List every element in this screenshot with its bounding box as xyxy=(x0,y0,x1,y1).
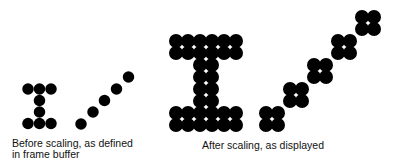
before-scaling-letter-i xyxy=(22,83,57,129)
pixel-dot xyxy=(34,83,46,95)
scaled-pixel-dot xyxy=(343,46,357,60)
scaled-pixel-dot xyxy=(193,58,207,72)
pixel-dot xyxy=(99,95,111,107)
scaled-pixel-dot xyxy=(169,34,183,48)
scaled-pixel-dot xyxy=(259,106,273,120)
scaled-pixel-dot xyxy=(205,118,219,132)
scaled-pixel-dot xyxy=(307,70,321,84)
scaled-pixel-dot xyxy=(193,70,207,84)
scaled-pixel-dot xyxy=(205,82,219,96)
scaled-pixel-dot xyxy=(295,94,309,108)
pixel-dot xyxy=(34,95,46,107)
before-caption-line-2: in frame buffer xyxy=(12,149,133,160)
scaled-pixel-dot xyxy=(283,82,297,96)
after-caption-line-1: After scaling, as displayed xyxy=(202,140,324,151)
scaled-pixel-dot xyxy=(181,34,195,48)
after-scaling-diagonal-line xyxy=(259,10,381,132)
scaled-pixel-dot xyxy=(343,34,357,48)
scaled-pixel-dot xyxy=(205,46,219,60)
pixel-dot xyxy=(111,83,123,95)
scaled-pixel-dot xyxy=(205,94,219,108)
scaled-pixel-dot xyxy=(271,118,285,132)
scaled-pixel-dot xyxy=(205,106,219,120)
scaled-pixel-dot xyxy=(217,46,231,60)
scaled-pixel-dot xyxy=(181,106,195,120)
scaled-pixel-dot xyxy=(205,70,219,84)
after-scaling-letter-i xyxy=(169,34,243,132)
scaled-pixel-dot xyxy=(355,22,369,36)
before-scaling-diagonal-line xyxy=(75,71,134,130)
scaled-pixel-dot xyxy=(217,118,231,132)
scaled-pixel-dot xyxy=(259,118,273,132)
scaled-pixel-dot xyxy=(367,22,381,36)
pixel-scaling-diagram: Before scaling, as defined in frame buff… xyxy=(0,0,396,166)
pixel-dot xyxy=(34,106,46,118)
scaled-pixel-dot xyxy=(193,94,207,108)
scaled-pixel-dot xyxy=(181,118,195,132)
scaled-pixel-dot xyxy=(193,46,207,60)
scaled-pixel-dot xyxy=(193,82,207,96)
pixel-dot xyxy=(45,118,57,130)
scaled-pixel-dot xyxy=(193,118,207,132)
scaled-pixel-dot xyxy=(331,46,345,60)
scaled-pixel-dot xyxy=(283,94,297,108)
pixel-dot xyxy=(22,118,34,130)
pixel-dot xyxy=(45,83,57,95)
scaled-pixel-dot xyxy=(319,70,333,84)
scaled-pixel-dot xyxy=(271,106,285,120)
pixel-dot xyxy=(123,71,135,83)
scaled-pixel-dot xyxy=(181,46,195,60)
scaled-pixel-dot xyxy=(193,106,207,120)
pixel-dot xyxy=(75,118,87,130)
before-scaling-caption: Before scaling, as defined in frame buff… xyxy=(12,138,133,160)
scaled-pixel-dot xyxy=(169,106,183,120)
scaled-pixel-dot xyxy=(295,82,309,96)
pixel-dot xyxy=(87,106,99,118)
scaled-pixel-dot xyxy=(355,10,369,24)
scaled-pixel-dot xyxy=(217,106,231,120)
scaled-pixel-dot xyxy=(367,10,381,24)
scaled-pixel-dot xyxy=(217,34,231,48)
scaled-pixel-dot xyxy=(169,46,183,60)
pixel-dot xyxy=(34,118,46,130)
scaled-pixel-dot xyxy=(229,34,243,48)
scaled-pixel-dot xyxy=(229,118,243,132)
scaled-pixel-dot xyxy=(205,58,219,72)
scaled-pixel-dot xyxy=(205,34,219,48)
after-scaling-caption: After scaling, as displayed xyxy=(202,140,324,151)
pixel-dot xyxy=(22,83,34,95)
scaled-pixel-dot xyxy=(193,34,207,48)
scaled-pixel-dot xyxy=(319,58,333,72)
scaled-pixel-dot xyxy=(229,106,243,120)
scaled-pixel-dot xyxy=(331,34,345,48)
scaled-pixel-dot xyxy=(169,118,183,132)
scaled-pixel-dot xyxy=(229,46,243,60)
scaled-pixel-dot xyxy=(307,58,321,72)
